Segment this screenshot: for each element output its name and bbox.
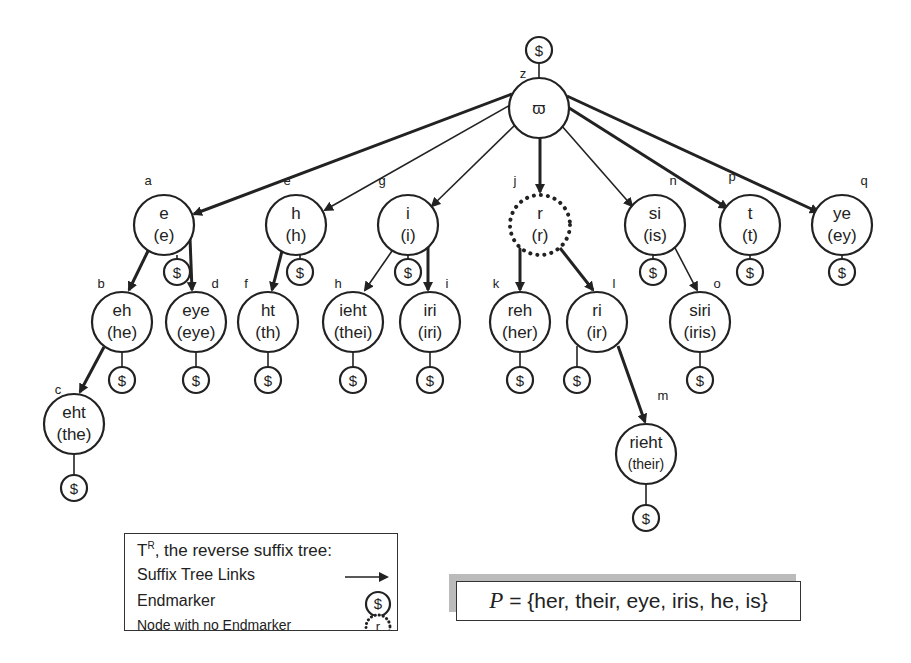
svg-text:(thei): (thei) — [334, 323, 373, 342]
svg-text:eh: eh — [113, 301, 132, 320]
node-a: a e (e) — [134, 173, 194, 255]
node-g: g i (i) — [378, 173, 438, 255]
svg-text:$: $ — [404, 264, 413, 281]
svg-text:rieht: rieht — [629, 433, 662, 452]
svg-text:ri: ri — [592, 301, 601, 320]
svg-text:g: g — [378, 173, 385, 188]
node-q: q ye (ey) — [812, 173, 872, 255]
svg-text:$: $ — [642, 510, 651, 527]
svg-text:j: j — [513, 173, 517, 188]
svg-text:$: $ — [118, 372, 127, 389]
svg-text:(th): (th) — [255, 323, 281, 342]
svg-text:$: $ — [746, 264, 755, 281]
svg-text:reh: reh — [508, 301, 533, 320]
svg-text:ϖ: ϖ — [532, 99, 545, 118]
arrow-icon — [345, 572, 389, 582]
svg-text:(he): (he) — [107, 323, 137, 342]
node-m: m rieht (their) $ — [616, 388, 676, 531]
node-c: c eht (the) $ — [44, 382, 104, 501]
svg-text:(is): (is) — [643, 226, 667, 245]
svg-text:t: t — [748, 204, 753, 223]
svg-text:$: $ — [349, 372, 358, 389]
node-b: b eh (he) — [92, 276, 152, 352]
endmarker-root: $ — [535, 42, 544, 59]
svg-text:(e): (e) — [154, 226, 175, 245]
svg-text:(h): (h) — [286, 226, 307, 245]
svg-text:$: $ — [426, 372, 435, 389]
svg-text:(iris): (iris) — [683, 323, 716, 342]
svg-text:siri: siri — [689, 301, 711, 320]
svg-text:z: z — [520, 66, 527, 81]
node-i: i iri (iri) — [400, 276, 460, 352]
svg-text:h: h — [291, 204, 300, 223]
svg-text:b: b — [97, 276, 104, 291]
svg-text:i: i — [406, 204, 410, 223]
svg-text:(i): (i) — [400, 226, 415, 245]
svg-text:h: h — [334, 276, 341, 291]
node-e: e h (h) — [266, 173, 326, 255]
svg-text:a: a — [144, 173, 152, 188]
svg-text:e: e — [159, 204, 168, 223]
svg-text:$: $ — [573, 372, 582, 389]
legend-box: TR, the reverse suffix tree: Suffix Tree… — [124, 533, 398, 631]
svg-text:$: $ — [296, 264, 305, 281]
svg-text:(ey): (ey) — [827, 226, 856, 245]
svg-text:$: $ — [649, 264, 658, 281]
legend-symbols: $ r — [125, 534, 397, 630]
node-h: h ieht (thei) — [323, 276, 383, 352]
svg-text:k: k — [493, 276, 500, 291]
svg-text:(her): (her) — [502, 323, 538, 342]
svg-text:iri: iri — [423, 301, 436, 320]
svg-text:si: si — [649, 204, 661, 223]
svg-text:$: $ — [696, 372, 705, 389]
pattern-var: P — [489, 588, 503, 613]
svg-text:c: c — [55, 382, 62, 397]
svg-text:e: e — [283, 173, 290, 188]
endmarker-icon: $ — [366, 592, 390, 616]
svg-text:ht: ht — [261, 301, 275, 320]
svg-text:$: $ — [264, 372, 273, 389]
svg-text:$: $ — [838, 264, 847, 281]
tree-edges — [74, 63, 842, 505]
endmarkers-level2: $ $ $ $ $ $ $ $ — [109, 367, 713, 393]
svg-text:ieht: ieht — [339, 301, 367, 320]
svg-text:(their): (their) — [628, 456, 665, 472]
svg-text:(ir): (ir) — [587, 323, 608, 342]
node-d: d eye (eye) — [166, 276, 226, 352]
pattern-set-box: P = {her, their, eye, iris, he, is} — [456, 581, 801, 621]
svg-text:(r): (r) — [532, 226, 549, 245]
svg-text:o: o — [713, 276, 720, 291]
svg-text:r: r — [537, 204, 543, 223]
svg-text:n: n — [669, 173, 676, 188]
dotted-node-icon: r — [366, 615, 390, 630]
node-l: l ri (ir) — [567, 276, 627, 352]
svg-text:f: f — [244, 276, 248, 291]
svg-text:p: p — [728, 169, 735, 184]
svg-text:$: $ — [173, 264, 182, 281]
svg-text:l: l — [613, 276, 616, 291]
svg-text:ye: ye — [833, 204, 851, 223]
svg-text:r: r — [376, 619, 381, 630]
svg-text:(the): (the) — [57, 425, 92, 444]
node-n: n si (is) — [625, 173, 685, 255]
svg-text:$: $ — [70, 480, 79, 497]
endmarkers-level1: $ $ $ $ $ $ — [164, 259, 855, 285]
node-o: o siri (iris) — [670, 276, 730, 352]
svg-text:i: i — [446, 276, 449, 291]
svg-text:(eye): (eye) — [177, 323, 216, 342]
root-node: $ z ϖ — [509, 37, 569, 138]
svg-text:$: $ — [374, 595, 383, 612]
svg-text:eht: eht — [62, 403, 86, 422]
svg-text:eye: eye — [182, 301, 209, 320]
svg-text:q: q — [860, 173, 867, 188]
svg-text:m: m — [658, 388, 669, 403]
svg-text:$: $ — [516, 372, 525, 389]
node-f: f ht (th) — [238, 276, 298, 352]
svg-text:(t): (t) — [742, 226, 758, 245]
pattern-text: = {her, their, eye, iris, he, is} — [503, 589, 767, 612]
svg-text:$: $ — [192, 372, 201, 389]
svg-text:(iri): (iri) — [418, 323, 443, 342]
svg-text:d: d — [211, 276, 218, 291]
